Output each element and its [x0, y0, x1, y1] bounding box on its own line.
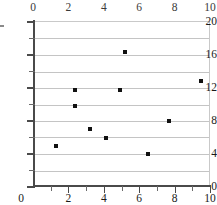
y-axis-minor-tick — [29, 170, 35, 171]
top-axis-tick-label: 0 — [30, 0, 36, 14]
gridline — [33, 137, 209, 138]
y-axis-tick-label: 8 — [193, 114, 217, 126]
data-point — [104, 136, 108, 140]
scatter-plot-figure: 0246810 048121620 0246810 — [0, 0, 217, 205]
gridline — [33, 121, 209, 122]
y-axis-major-tick — [27, 54, 35, 56]
y-axis-minor-tick — [29, 104, 35, 105]
x-axis-minor-tick — [86, 186, 87, 191]
x-axis-tick-label: 0 — [18, 192, 24, 205]
data-point — [146, 152, 150, 156]
gridline — [33, 154, 209, 155]
x-axis-tick-label: 8 — [172, 192, 178, 205]
data-point — [54, 144, 58, 148]
top-axis-tick-label: 8 — [172, 0, 178, 14]
top-axis-tick-label: 10 — [204, 0, 216, 14]
y-axis-major-tick — [27, 21, 35, 23]
y-axis-tick-label: 20 — [193, 15, 217, 27]
x-axis-minor-tick — [192, 186, 193, 191]
x-axis-minor-tick — [122, 186, 123, 191]
x-axis-tick-label: 10 — [204, 192, 216, 205]
data-point — [73, 88, 77, 92]
y-axis-major-tick — [27, 186, 35, 188]
y-axis-major-tick — [27, 120, 35, 122]
gridline — [33, 171, 209, 172]
x-axis-tick-label: 6 — [136, 192, 142, 205]
plot-area — [33, 21, 210, 186]
data-point — [123, 50, 127, 54]
top-x-axis: 0246810 — [0, 0, 217, 20]
y-axis-major-tick — [27, 153, 35, 155]
x-axis-tick-label: 4 — [101, 192, 107, 205]
x-axis-minor-tick — [157, 186, 158, 191]
data-point — [73, 104, 77, 108]
gridline — [33, 38, 209, 39]
top-axis-tick-label: 6 — [136, 0, 142, 14]
data-point — [167, 119, 171, 123]
y-axis-tick-label: 12 — [193, 81, 217, 93]
y-axis-tick-label: 4 — [193, 147, 217, 159]
top-axis-tick-label: 2 — [66, 0, 72, 14]
y-axis-major-tick — [27, 87, 35, 89]
y-axis-minor-tick — [29, 137, 35, 138]
data-point — [88, 127, 92, 131]
data-point — [118, 88, 122, 92]
gridline — [33, 105, 209, 106]
x-axis-tick-label: 2 — [66, 192, 72, 205]
crop-edge-mark — [0, 25, 4, 27]
gridline — [33, 55, 209, 56]
y-axis-tick-label: 16 — [193, 48, 217, 60]
y-axis-minor-tick — [29, 38, 35, 39]
x-axis-minor-tick — [51, 186, 52, 191]
top-axis-tick-label: 4 — [101, 0, 107, 14]
y-axis-minor-tick — [29, 71, 35, 72]
y-axis-tick-label: 0 — [193, 180, 217, 192]
gridline — [33, 72, 209, 73]
